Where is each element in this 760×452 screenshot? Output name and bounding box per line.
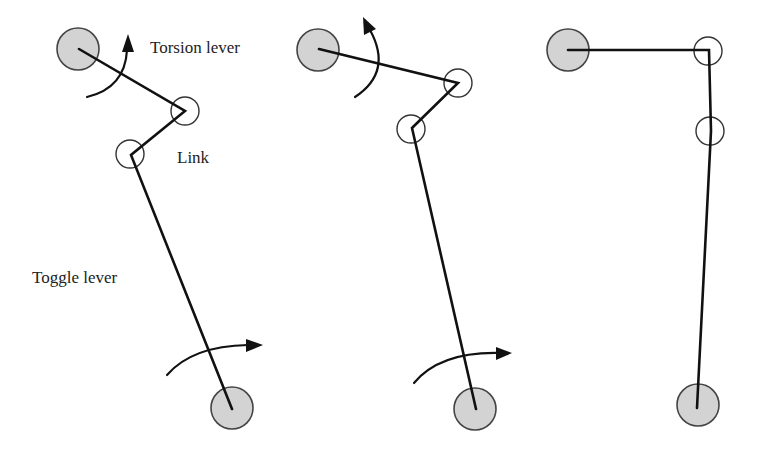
toggle-rotation-arrow (167, 345, 248, 375)
torsion-lever-fixed-pivot (297, 29, 339, 71)
mechanism-position-1 (57, 28, 263, 429)
toggle-mechanism-diagram: Torsion lever Link Toggle lever (0, 0, 760, 452)
link-label: Link (177, 148, 210, 167)
linkage-bars (319, 49, 476, 409)
arrowhead-icon (363, 17, 376, 35)
mechanism-position-2 (297, 17, 512, 430)
torsion-lever-label: Torsion lever (150, 38, 240, 57)
arrowhead-icon (246, 339, 263, 352)
toggle-rotation-arrow (414, 353, 498, 383)
arrowhead-icon (122, 34, 134, 52)
toggle-lever-label: Toggle lever (32, 268, 118, 287)
linkage-bars (79, 49, 232, 409)
linkage-bars (568, 50, 711, 408)
link-toggle-joint (116, 140, 144, 168)
arrowhead-icon (496, 347, 512, 360)
mechanism-position-3 (547, 29, 724, 426)
